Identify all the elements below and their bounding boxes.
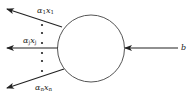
label-b: b: [181, 44, 186, 52]
node-circle: [58, 15, 125, 82]
label-a1x1: α1x1: [37, 7, 54, 16]
diagram-graphic: [0, 0, 190, 98]
label-anxn: αnxn: [35, 84, 52, 93]
flow-diagram: α1x1 αjxj αnxn b: [0, 0, 190, 98]
label-ajxj: αjxj: [23, 37, 36, 46]
